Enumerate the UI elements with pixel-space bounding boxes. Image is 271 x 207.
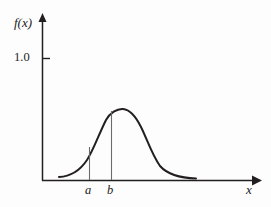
x-axis-label: x xyxy=(246,183,252,196)
x-marker-label-b: b xyxy=(107,184,113,197)
density-curve xyxy=(59,109,196,179)
y-axis-label: f(x) xyxy=(14,16,32,29)
plot-canvas xyxy=(0,0,271,207)
density-curve-figure: f(x) x 1.0 a b xyxy=(0,0,271,207)
x-marker-label-a: a xyxy=(85,184,91,197)
y-tick-label-1.0: 1.0 xyxy=(14,51,30,64)
x-axis-arrowhead xyxy=(252,176,262,186)
y-axis-arrowhead xyxy=(39,13,47,22)
